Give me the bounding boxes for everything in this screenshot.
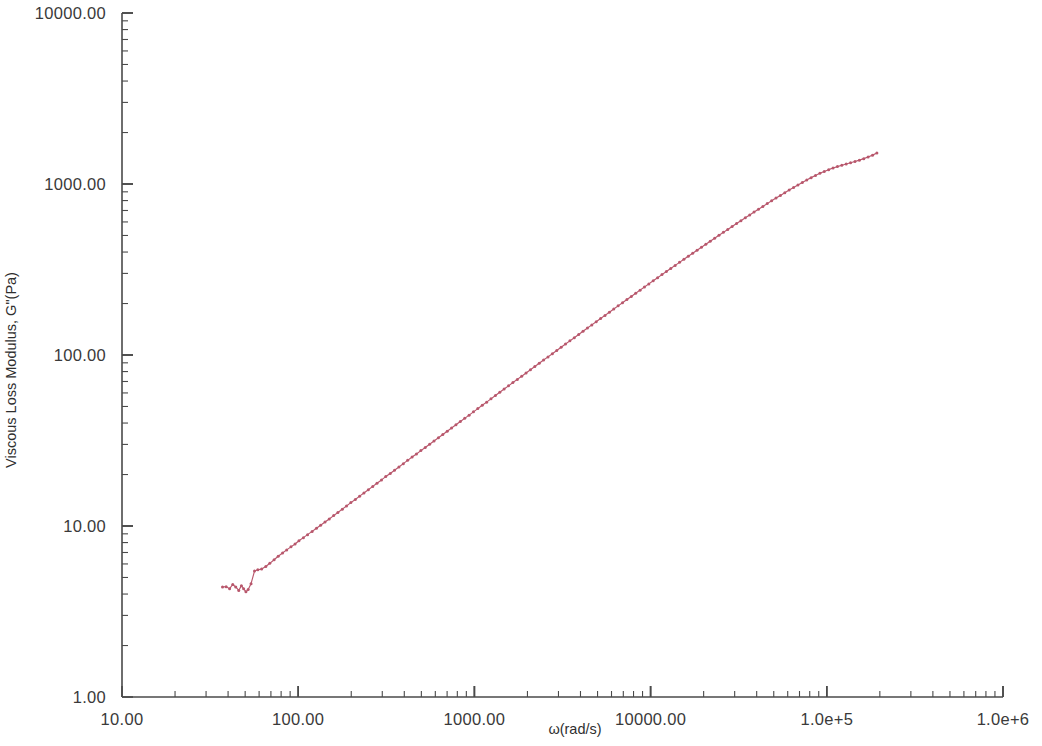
data-point-marker	[608, 311, 611, 314]
data-point-marker	[498, 391, 501, 394]
data-point-marker	[463, 417, 466, 420]
data-point-marker	[533, 365, 536, 368]
data-point-marker	[845, 163, 848, 166]
data-point-marker	[709, 240, 712, 243]
y-axis-tick-labels: 1.0010.00100.001000.0010000.00	[35, 4, 106, 706]
data-point-marker	[516, 378, 519, 381]
data-point-marker	[450, 427, 453, 430]
data-point-marker	[796, 183, 799, 186]
x-tick-label: 10.00	[101, 710, 144, 728]
x-tick-label: 1.0e+6	[977, 710, 1030, 728]
data-point-marker	[582, 330, 585, 333]
data-point-marker	[294, 542, 297, 545]
data-point-marker	[402, 462, 405, 465]
data-point-marker	[529, 368, 532, 371]
data-point-marker	[621, 301, 624, 304]
data-point-marker	[277, 555, 280, 558]
data-point-marker	[281, 552, 284, 555]
data-point-marker	[247, 588, 250, 591]
data-point-marker	[446, 430, 449, 433]
data-point-marker	[853, 160, 856, 163]
data-point-marker	[669, 267, 672, 270]
data-point-marker	[573, 336, 576, 339]
data-point-marker	[234, 585, 237, 588]
data-point-marker	[428, 443, 431, 446]
data-point-marker	[801, 181, 804, 184]
data-point-marker	[406, 459, 409, 462]
data-point-marker	[700, 246, 703, 249]
data-point-marker	[792, 186, 795, 189]
data-point-marker	[319, 524, 322, 527]
data-point-marker	[268, 562, 271, 565]
x-axis-title: ω(rad/s)	[548, 721, 601, 737]
data-point-marker	[568, 339, 571, 342]
data-point-marker	[691, 252, 694, 255]
data-point-marker	[273, 558, 276, 561]
data-point-marker	[827, 168, 830, 171]
data-point-marker	[358, 495, 361, 498]
data-point-marker	[324, 521, 327, 524]
data-point-marker	[349, 501, 352, 504]
data-point-marker	[783, 191, 786, 194]
data-point-marker	[231, 583, 234, 586]
data-point-marker	[481, 404, 484, 407]
data-point-marker	[367, 488, 370, 491]
data-point-marker	[726, 228, 729, 231]
data-point-marker	[433, 440, 436, 443]
x-tick-label: 1.0e+5	[800, 710, 853, 728]
data-point-marker	[253, 570, 256, 573]
data-point-marker	[564, 343, 567, 346]
data-point-marker	[397, 465, 400, 468]
data-point-marker	[639, 289, 642, 292]
data-point-marker	[389, 472, 392, 475]
data-point-marker	[779, 194, 782, 197]
data-point-marker	[250, 582, 253, 585]
data-point-marker	[660, 273, 663, 276]
data-point-marker	[476, 407, 479, 410]
data-point-marker	[375, 482, 378, 485]
data-point-marker	[315, 527, 318, 530]
data-point-marker	[551, 352, 554, 355]
data-point-marker	[341, 508, 344, 511]
data-point-marker	[459, 420, 462, 423]
data-point-marker	[770, 199, 773, 202]
data-point-marker	[221, 585, 224, 588]
data-point-marker	[612, 308, 615, 311]
data-point-marker	[617, 304, 620, 307]
data-point-marker	[297, 539, 300, 542]
data-point-marker	[362, 491, 365, 494]
data-point-marker	[761, 205, 764, 208]
data-point-marker	[237, 589, 240, 592]
data-point-marker	[555, 349, 558, 352]
data-point-marker	[775, 197, 778, 200]
data-point-marker	[735, 222, 738, 225]
data-point-marker	[823, 170, 826, 173]
data-point-marker	[546, 355, 549, 358]
data-point-marker	[437, 436, 440, 439]
data-point-marker	[647, 282, 650, 285]
data-point-marker	[285, 548, 288, 551]
data-point-marker	[862, 157, 865, 160]
data-point-marker	[643, 286, 646, 289]
x-tick-label: 100.00	[272, 710, 324, 728]
data-point-marker	[832, 167, 835, 170]
data-point-marker	[485, 401, 488, 404]
y-tick-label: 10000.00	[35, 4, 106, 22]
x-axis-ticks	[122, 686, 1003, 697]
data-point-marker	[599, 317, 602, 320]
data-point-marker	[840, 164, 843, 167]
data-point-marker	[696, 249, 699, 252]
data-point-marker	[415, 452, 418, 455]
y-tick-label: 1000.00	[44, 175, 106, 193]
data-point-marker	[384, 475, 387, 478]
data-point-marker	[766, 202, 769, 205]
data-point-marker	[328, 517, 331, 520]
data-point-marker	[687, 255, 690, 258]
data-point-marker	[722, 231, 725, 234]
data-point-marker	[757, 208, 760, 211]
y-tick-label: 10.00	[63, 517, 106, 535]
y-axis-ticks	[122, 13, 133, 697]
data-point-marker	[717, 234, 720, 237]
data-series-group	[221, 152, 878, 594]
data-point-marker	[788, 189, 791, 192]
